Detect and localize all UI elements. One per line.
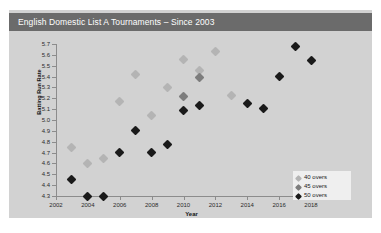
data-point <box>99 191 109 201</box>
y-tick-label: 4.3 <box>32 193 50 199</box>
x-tick-label: 2016 <box>266 202 292 208</box>
data-point <box>258 103 268 113</box>
data-point <box>115 148 125 158</box>
y-tick-label: 5.2 <box>32 95 50 101</box>
y-tick-label-text: 5.1 <box>34 106 50 112</box>
data-point <box>242 99 252 109</box>
y-tick-label: 5.5 <box>32 63 50 69</box>
chart-title-bar: English Domestic List A Tournaments – Si… <box>9 13 372 31</box>
legend-label: 50 overs <box>304 192 327 198</box>
y-tick-label-text: 4.9 <box>34 128 50 134</box>
y-tick-label-text: 5.4 <box>34 74 50 80</box>
x-tick-label: 2012 <box>202 202 228 208</box>
x-tick-label: 2002 <box>43 202 69 208</box>
data-point <box>115 97 125 107</box>
data-point <box>226 90 236 100</box>
data-point <box>67 175 77 185</box>
legend-label: 45 overs <box>304 183 327 189</box>
data-point <box>83 158 93 168</box>
y-tick-label-text: 4.8 <box>34 139 50 145</box>
y-tick-label-text: 4.6 <box>34 160 50 166</box>
data-point <box>210 47 220 57</box>
y-tick-label: 5.3 <box>32 84 50 90</box>
legend-marker-icon <box>295 184 302 191</box>
y-tick-label-text: 5.5 <box>34 63 50 69</box>
data-point <box>179 54 189 64</box>
legend-label: 40 overs <box>304 174 327 180</box>
chart-card: English Domestic List A Tournaments – Si… <box>9 10 372 218</box>
data-point <box>67 142 77 152</box>
x-tick-label: 2018 <box>298 202 324 208</box>
y-tick-label-text: 5.6 <box>34 52 50 58</box>
data-point <box>179 91 189 101</box>
y-tick-label: 4.4 <box>32 182 50 188</box>
data-point <box>147 111 157 121</box>
data-point <box>99 153 109 163</box>
data-point <box>179 105 189 115</box>
x-tick-label: 2010 <box>171 202 197 208</box>
x-tick-label: 2004 <box>75 202 101 208</box>
x-tick-label: 2014 <box>234 202 260 208</box>
y-tick-label: 4.9 <box>32 128 50 134</box>
x-tick <box>56 196 57 200</box>
y-tick-label: 4.8 <box>32 139 50 145</box>
y-tick-label: 4.7 <box>32 150 50 156</box>
x-tick-label: 2006 <box>107 202 133 208</box>
data-point <box>274 72 284 82</box>
chart-legend: 40 overs45 overs50 overs <box>293 171 351 200</box>
x-axis-line <box>56 196 327 197</box>
data-point <box>131 69 141 79</box>
data-point <box>195 101 205 111</box>
y-tick-label-text: 5.2 <box>34 95 50 101</box>
x-tick <box>184 196 185 200</box>
data-point <box>83 191 93 201</box>
plot-zone: Batting Run Rate Year 5.75.65.55.45.35.2… <box>9 31 372 218</box>
y-tick-label-text: 4.4 <box>34 182 50 188</box>
y-tick-label: 4.5 <box>32 171 50 177</box>
x-tick <box>120 196 121 200</box>
y-tick-label-text: 5.3 <box>34 84 50 90</box>
data-point <box>163 82 173 92</box>
y-tick-label: 5.4 <box>32 74 50 80</box>
y-tick-label: 5.0 <box>32 117 50 123</box>
legend-marker-icon <box>295 193 302 200</box>
data-point <box>131 126 141 136</box>
y-tick-label-text: 4.5 <box>34 171 50 177</box>
x-tick-label: 2008 <box>139 202 165 208</box>
legend-marker-icon <box>295 175 302 182</box>
data-point <box>306 55 316 65</box>
x-tick <box>215 196 216 200</box>
data-point <box>163 140 173 150</box>
y-tick-label-text: 4.7 <box>34 150 50 156</box>
y-tick-label: 5.6 <box>32 52 50 58</box>
plot-area <box>56 44 327 196</box>
x-axis-title: Year <box>56 211 327 217</box>
data-point <box>290 41 300 51</box>
y-tick-label: 5.7 <box>32 41 50 47</box>
x-tick <box>247 196 248 200</box>
data-point <box>195 73 205 83</box>
y-tick-label-text: 4.3 <box>34 193 50 199</box>
y-tick-label-text: 5.0 <box>34 117 50 123</box>
y-tick-label: 4.6 <box>32 160 50 166</box>
y-tick-label-text: 5.7 <box>34 41 50 47</box>
x-tick <box>152 196 153 200</box>
data-point <box>147 148 157 158</box>
x-tick <box>279 196 280 200</box>
chart-title: English Domestic List A Tournaments – Si… <box>18 17 214 27</box>
y-tick-label: 5.1 <box>32 106 50 112</box>
